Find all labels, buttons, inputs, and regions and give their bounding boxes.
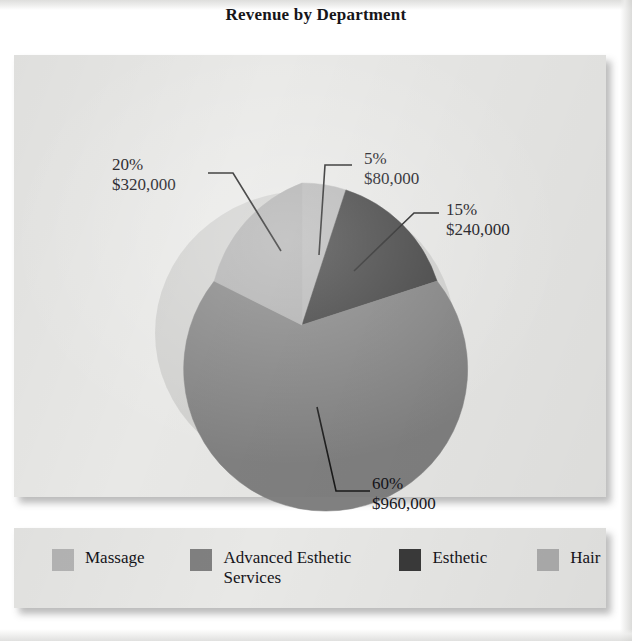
legend-item-massage[interactable]: Massage [52,548,144,571]
legend-label-massage: Massage [85,548,144,568]
data-label-esthetic-percent: 15% [446,200,510,220]
paper-edge-bottom [0,629,632,641]
legend-swatch-esthetic [399,549,421,571]
legend-swatch-advanced-esthetic-services [190,549,212,571]
legend-swatch-massage [52,549,74,571]
data-label-massage: 5% $80,000 [364,149,419,189]
data-label-advanced-percent: 60% [372,474,436,494]
data-label-massage-percent: 5% [364,149,419,169]
legend-label-esthetic: Esthetic [432,548,487,568]
chart-title: Revenue by Department [0,5,632,25]
paper-edge-right [620,0,632,641]
data-label-advanced-amount: $960,000 [372,494,436,514]
legend: Massage Advanced Esthetic Services Esthe… [14,548,606,588]
data-label-hair-percent: 20% [112,155,176,175]
legend-item-hair[interactable]: Hair [537,548,600,571]
legend-swatch-hair [537,549,559,571]
data-label-esthetic: 15% $240,000 [446,200,510,240]
legend-panel: Massage Advanced Esthetic Services Esthe… [14,528,606,608]
data-label-hair: 20% $320,000 [112,155,176,195]
legend-item-esthetic[interactable]: Esthetic [399,548,487,571]
data-label-hair-amount: $320,000 [112,175,176,195]
data-label-massage-amount: $80,000 [364,169,419,189]
data-label-advanced-esthetic-services: 60% $960,000 [372,474,436,514]
chart-page: Revenue by Department 20% $320,000 [0,0,632,641]
pie-chart [14,55,606,497]
legend-item-advanced-esthetic-services[interactable]: Advanced Esthetic Services [190,548,355,588]
plot-panel: 20% $320,000 5% $80,000 15% $240,000 60%… [14,55,606,497]
data-label-esthetic-amount: $240,000 [446,220,510,240]
legend-label-hair: Hair [570,548,600,568]
legend-label-advanced-esthetic-services: Advanced Esthetic Services [223,548,355,588]
